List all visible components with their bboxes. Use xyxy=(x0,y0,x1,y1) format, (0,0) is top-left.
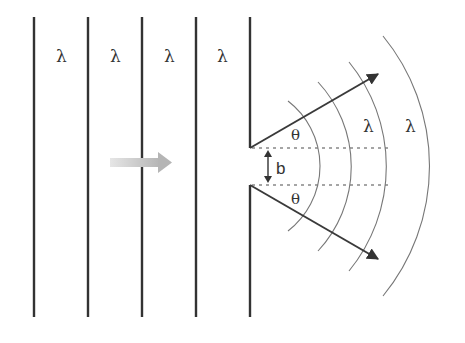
diffracted-wavefronts xyxy=(288,36,429,296)
diffracted-lambda-labels: λ λ xyxy=(363,116,416,136)
arc-4 xyxy=(383,36,429,296)
diffraction-rays xyxy=(250,74,378,259)
lambda-label-3: λ xyxy=(164,46,175,66)
arc-1 xyxy=(288,101,320,231)
arc-3 xyxy=(349,62,386,271)
angle-label-upper: θ xyxy=(291,126,300,144)
diffracted-lambda-1: λ xyxy=(363,116,374,136)
slit-width-label: b xyxy=(276,159,285,178)
diffracted-lambda-2: λ xyxy=(405,116,416,136)
angle-label-lower: θ xyxy=(291,190,300,208)
arc-2 xyxy=(318,82,351,251)
slit-guide-lines xyxy=(252,148,390,185)
lambda-label-4: λ xyxy=(217,46,228,66)
lambda-label-1: λ xyxy=(56,46,67,66)
lambda-label-2: λ xyxy=(110,46,121,66)
diffraction-diagram: λ λ λ λ b θ θ λ λ xyxy=(0,0,465,343)
upper-ray xyxy=(250,74,378,148)
slit-width-indicator: b xyxy=(264,150,285,183)
